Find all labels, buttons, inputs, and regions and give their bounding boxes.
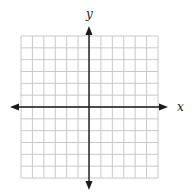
y-axis-up-arrow-icon (86, 26, 93, 35)
coordinate-grid (0, 0, 192, 196)
x-axis-left-arrow-icon (10, 104, 19, 111)
coordinate-plane: y x (0, 0, 192, 196)
y-axis-label: y (86, 8, 93, 20)
y-axis-down-arrow-icon (86, 181, 93, 190)
x-axis-label: x (177, 101, 184, 113)
x-axis-right-arrow-icon (159, 104, 168, 111)
